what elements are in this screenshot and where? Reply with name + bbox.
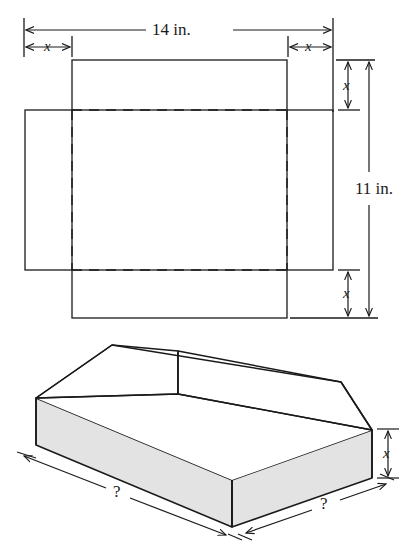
corner-x-label-top-left: x — [44, 39, 51, 54]
flat-inner-solid-rect — [72, 60, 287, 318]
corner-x-label-right-bottom: x — [343, 286, 350, 301]
open-box-group — [17, 345, 399, 540]
flat-pattern-group — [24, 18, 378, 318]
box-dim-right-ext-end — [380, 474, 394, 480]
box-length-left-label: ? — [113, 483, 121, 500]
height-dimension-label: 11 in. — [355, 180, 393, 197]
corner-x-label-right-top: x — [343, 78, 350, 93]
width-dimension-label: 14 in. — [152, 21, 191, 38]
figure-root: 14 in. x x x x 11 in. x ? ? — [0, 0, 407, 560]
box-length-right-label: ? — [320, 495, 328, 512]
corner-x-label-top-right: x — [305, 39, 312, 54]
box-height-x-label: x — [383, 446, 390, 461]
